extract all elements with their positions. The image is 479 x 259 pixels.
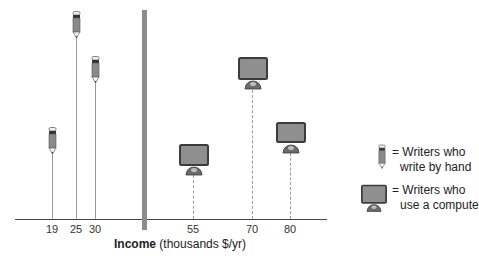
stem-19 [52, 152, 53, 219]
legend-hand-line2: write by hand [392, 160, 471, 175]
tick-label: 19 [46, 223, 58, 235]
computer-monitor-icon [179, 144, 209, 176]
legend-pencil-icon [378, 143, 386, 171]
legend-computer-line1: = Writers who [392, 183, 479, 198]
stem-70 [252, 90, 253, 219]
pencil-icon [72, 11, 81, 39]
x-axis-label: Income (thousands $/yr) [114, 237, 246, 251]
x-axis-label-bold: Income [114, 237, 156, 251]
pencil-icon [91, 56, 100, 84]
legend-computer-text: = Writers who use a compute [392, 183, 479, 213]
tick-label: 55 [187, 223, 199, 235]
stem-55 [193, 175, 194, 219]
stem-30 [95, 82, 96, 219]
tick-label: 25 [70, 223, 82, 235]
stem-80 [290, 153, 291, 219]
x-axis-line [15, 219, 327, 220]
divider-bar [142, 10, 147, 230]
tick-label: 30 [89, 223, 101, 235]
tick-label: 80 [284, 223, 296, 235]
computer-monitor-icon [238, 57, 268, 90]
computer-monitor-icon [276, 122, 306, 154]
legend-computer-line2: use a compute [392, 198, 479, 213]
stem-25 [76, 38, 77, 219]
legend-hand-text: = Writers who write by hand [392, 145, 471, 175]
legend-hand-line1: = Writers who [392, 145, 471, 160]
pencil-icon [48, 127, 57, 155]
legend-computer-icon [361, 184, 387, 213]
x-axis-label-units: (thousands $/yr) [156, 237, 246, 251]
tick-label: 70 [246, 223, 258, 235]
